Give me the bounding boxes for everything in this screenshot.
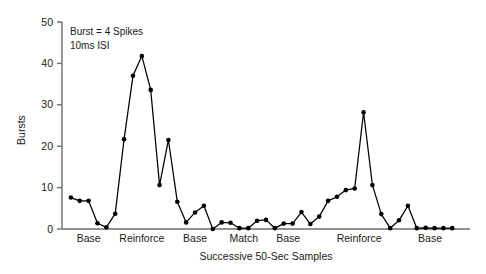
data-point [264, 218, 269, 223]
data-point [255, 218, 260, 223]
x-group-label-match: Match [230, 232, 259, 244]
annotation-line-1: Burst = 4 Spikes [70, 26, 143, 37]
data-point [317, 214, 322, 219]
y-tick-label-0: 0 [47, 223, 53, 235]
data-point [86, 199, 91, 204]
data-point [104, 225, 109, 230]
data-point [95, 221, 100, 226]
x-axis-group-labels: BaseReinforceBaseMatchBaseReinforceBase [77, 232, 443, 244]
bursts-line-chart: 01020304050 BaseReinforceBaseMatchBaseRe… [0, 0, 486, 274]
data-point [77, 199, 82, 204]
data-point [361, 110, 366, 115]
x-group-label-base: Base [183, 232, 207, 244]
data-point [335, 194, 340, 199]
data-point [122, 137, 127, 142]
x-group-label-reinforce: Reinforce [119, 232, 164, 244]
data-point [202, 204, 207, 209]
x-group-label-base: Base [77, 232, 101, 244]
y-tick-label-10: 10 [41, 181, 53, 193]
data-point [406, 204, 411, 209]
data-point [441, 226, 446, 231]
data-point [113, 211, 118, 216]
data-point [299, 210, 304, 215]
y-tick-label-40: 40 [41, 57, 53, 69]
data-series-group [69, 54, 455, 232]
x-group-label-reinforce: Reinforce [337, 232, 382, 244]
data-point [140, 54, 145, 59]
data-point [388, 226, 393, 231]
data-point [148, 88, 153, 93]
data-point [69, 195, 74, 200]
data-point [326, 199, 331, 204]
data-point [281, 221, 286, 226]
data-point [352, 186, 357, 191]
x-axis-title: Successive 50-Sec Samples [199, 250, 332, 262]
data-point [308, 222, 313, 227]
series-markers-bursts [69, 54, 455, 232]
data-point [273, 226, 278, 231]
series-line-bursts [71, 56, 452, 229]
data-point [246, 226, 251, 231]
y-axis-title: Bursts [15, 115, 27, 145]
data-point [290, 221, 295, 226]
data-point [370, 183, 375, 188]
x-group-label-base: Base [418, 232, 442, 244]
data-point [175, 199, 180, 204]
y-axis-tick-labels: 01020304050 [41, 16, 53, 235]
data-point [450, 226, 455, 231]
data-point [131, 74, 136, 79]
y-tick-label-50: 50 [41, 16, 53, 28]
y-axis-ticks [57, 22, 62, 229]
data-point [219, 220, 224, 225]
data-point [432, 226, 437, 231]
data-point [228, 220, 233, 225]
data-point [423, 225, 428, 230]
data-point [184, 220, 189, 225]
data-point [379, 212, 384, 217]
data-point [166, 138, 171, 143]
data-point [210, 227, 215, 232]
x-group-label-base: Base [276, 232, 300, 244]
data-point [344, 188, 349, 193]
data-point [414, 226, 419, 231]
data-point [237, 226, 242, 231]
y-tick-label-30: 30 [41, 98, 53, 110]
data-point [157, 183, 162, 188]
data-point [193, 210, 198, 215]
annotation-line-2: 10ms ISI [70, 40, 109, 51]
y-tick-label-20: 20 [41, 140, 53, 152]
data-point [397, 218, 402, 223]
